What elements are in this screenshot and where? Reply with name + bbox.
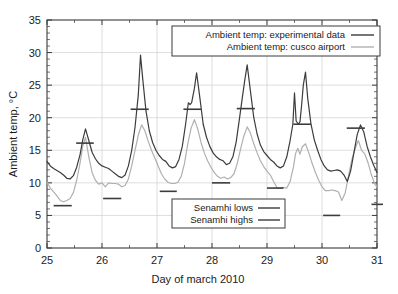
legend-bottom[interactable]: Senamhi lows Senamhi highs — [172, 199, 285, 228]
y-axis-title: Ambient temp, °C — [7, 91, 19, 177]
legend-top-label-1: Ambient temp: cusco airport — [227, 41, 346, 52]
y-tick-label: 20 — [29, 112, 41, 124]
legend-top-label-0: Ambient temp: experimental data — [206, 29, 346, 40]
x-tick-label: 29 — [261, 254, 273, 266]
x-tick-label: 30 — [316, 254, 328, 266]
y-tick-label: 30 — [29, 47, 41, 59]
legend-bottom-label-1: Senamhi highs — [190, 214, 253, 225]
x-tick-label: 27 — [151, 254, 163, 266]
x-axis-title: Day of march 2010 — [152, 273, 245, 285]
x-tick-label: 31 — [371, 254, 383, 266]
y-tick-label: 0 — [35, 242, 41, 254]
legend-top[interactable]: Ambient temp: experimental data Ambient … — [172, 26, 380, 56]
y-tick-label: 5 — [35, 209, 41, 221]
y-tick-label: 25 — [29, 79, 41, 91]
y-tick-label: 10 — [29, 177, 41, 189]
y-tick-label: 15 — [29, 144, 41, 156]
temperature-line-chart: 05101520253035 25262728293031 Day of mar… — [0, 0, 398, 294]
legend-bottom-label-0: Senamhi lows — [194, 202, 253, 213]
chart-container: 05101520253035 25262728293031 Day of mar… — [0, 0, 398, 294]
x-tick-label: 25 — [41, 254, 53, 266]
y-tick-label: 35 — [29, 14, 41, 26]
x-tick-label: 26 — [96, 254, 108, 266]
x-tick-label: 28 — [206, 254, 218, 266]
